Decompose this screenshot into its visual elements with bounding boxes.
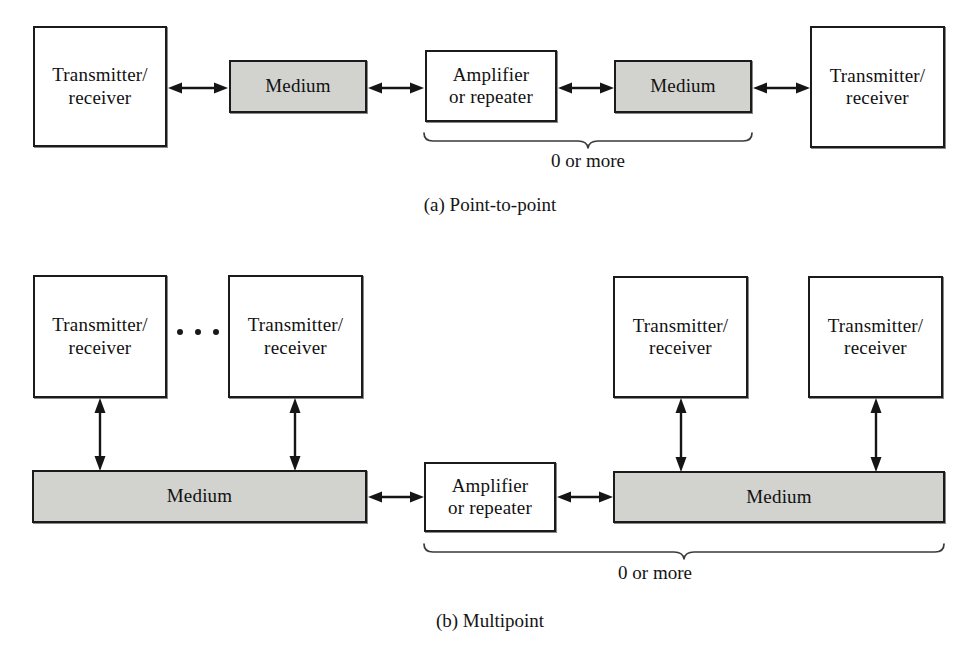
caption-point-to-point: (a) Point-to-point: [330, 194, 650, 216]
brace-zero-or-more-b: [422, 542, 946, 560]
node-amplifier-a: Amplifier or repeater: [425, 50, 557, 122]
link-arrow-b-2: [557, 487, 613, 507]
node-medium-2-a: Medium: [614, 60, 752, 113]
node-amplifier-b: Amplifier or repeater: [424, 462, 556, 532]
link-arrow-b-v1: [90, 398, 110, 471]
caption-multipoint: (b) Multipoint: [330, 610, 650, 632]
link-arrow-a-1: [168, 78, 228, 98]
node-label-line2: or repeater: [448, 497, 532, 519]
node-label-line1: Transmitter/: [633, 315, 729, 337]
node-label-line2: receiver: [830, 87, 926, 109]
node-transceiver-3-b: Transmitter/ receiver: [613, 276, 748, 398]
node-label: Medium: [265, 75, 331, 97]
node-label-line2: receiver: [828, 337, 924, 359]
figure-canvas: Transmitter/ receiver Medium: [0, 0, 979, 662]
annotation-zero-or-more-a: 0 or more: [422, 150, 754, 172]
ellipsis-icon: [177, 329, 219, 335]
annotation-zero-or-more-b: 0 or more: [495, 562, 815, 584]
node-medium-bar-1-b: Medium: [32, 470, 367, 523]
node-label-line1: Transmitter/: [830, 65, 926, 87]
link-arrow-a-4: [753, 78, 810, 98]
node-label: Medium: [650, 75, 716, 97]
link-arrow-a-3: [558, 78, 614, 98]
node-label-line2: receiver: [248, 337, 344, 359]
link-arrow-b-v3: [671, 398, 691, 472]
node-label-line2: receiver: [52, 87, 148, 109]
node-label: Medium: [746, 486, 812, 508]
node-label: Medium: [167, 485, 233, 507]
node-label-line2: or repeater: [449, 86, 533, 108]
node-transceiver-1-b: Transmitter/ receiver: [33, 275, 167, 398]
node-label-line1: Transmitter/: [52, 314, 148, 336]
node-label-line1: Transmitter/: [828, 315, 924, 337]
node-label-line2: receiver: [52, 337, 148, 359]
node-label-line1: Transmitter/: [248, 314, 344, 336]
brace-zero-or-more-a: [422, 131, 754, 149]
node-transceiver-left-a: Transmitter/ receiver: [33, 26, 167, 147]
node-label-line1: Amplifier: [449, 64, 533, 86]
node-label-line1: Transmitter/: [52, 64, 148, 86]
node-medium-1-a: Medium: [229, 60, 367, 113]
node-label-line2: receiver: [633, 337, 729, 359]
node-label-line1: Amplifier: [448, 475, 532, 497]
node-transceiver-4-b: Transmitter/ receiver: [808, 276, 943, 398]
link-arrow-b-v4: [866, 398, 886, 472]
link-arrow-b-1: [368, 487, 424, 507]
link-arrow-a-2: [368, 78, 424, 98]
node-transceiver-right-a: Transmitter/ receiver: [810, 26, 945, 148]
node-transceiver-2-b: Transmitter/ receiver: [228, 275, 363, 398]
link-arrow-b-v2: [285, 398, 305, 471]
node-medium-bar-2-b: Medium: [613, 471, 945, 523]
